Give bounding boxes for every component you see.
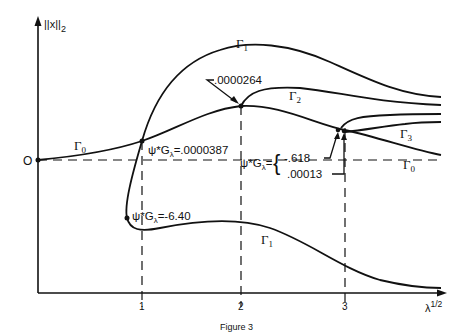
turning-point (125, 216, 130, 221)
x-tick-3: 3 (342, 301, 348, 312)
label-gamma1-bottom: Γ1 (261, 232, 273, 249)
bifurcation-diagram: ||x||2 λ1/2 O 1 2 3 Figure 3 Γ0 Γ1 Γ2 Γ3… (0, 0, 464, 335)
label-gamma1-top: Γ1 (236, 36, 248, 53)
brace-icon: { (273, 150, 280, 175)
bif-point-1 (140, 139, 145, 144)
bif-point-2 (239, 104, 244, 109)
x-tick-2: 2 (238, 301, 244, 312)
bif-point-3b (342, 129, 347, 134)
x-axis-arrow-icon (437, 290, 447, 297)
annotation-0000264: .0000264 (214, 74, 263, 86)
y-axis-label: ||x||2 (44, 18, 66, 34)
curve-gamma1 (126, 45, 441, 288)
label-gamma0-left: Γ0 (74, 138, 87, 155)
label-gamma2: Γ2 (289, 88, 301, 105)
x-axis-label: λ1/2 (425, 299, 443, 314)
curve-gamma3-lower (345, 122, 441, 132)
curve-gamma0 (38, 106, 441, 160)
y-axis-arrow-icon (35, 16, 42, 26)
annotation-618-label: ψ*Gλ= (240, 157, 273, 172)
annotation-618: -.618 (284, 152, 310, 164)
bif-point-3a (336, 128, 341, 133)
annotation-0000387: ψ*Gλ=.0000387 (148, 144, 228, 159)
label-gamma3: Γ3 (400, 126, 413, 143)
origin-point (36, 158, 41, 163)
figure-caption: Figure 3 (220, 322, 253, 332)
x-tick-1: 1 (139, 301, 145, 312)
arrowhead-icon (334, 132, 340, 139)
arrowhead-icon (230, 96, 239, 104)
curve-gamma2 (241, 88, 441, 106)
annotation-00013: .00013 (287, 168, 322, 180)
annotation-640: ψ*Gλ=-6.40 (132, 210, 191, 225)
arrowhead-icon (341, 133, 347, 140)
origin-label: O (23, 154, 32, 168)
